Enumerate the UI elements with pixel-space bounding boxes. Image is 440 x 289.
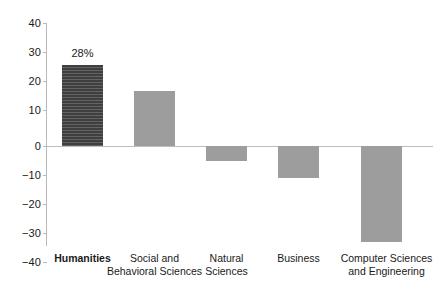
y-tick-label-0: 0 bbox=[0, 141, 41, 152]
x-label-computer-sciences-and-engineering: Computer Sciences and Engineering bbox=[337, 252, 436, 277]
y-tick-label-neg20: −20 bbox=[0, 199, 41, 210]
y-axis-line bbox=[46, 23, 47, 246]
y-tick-mark-neg30 bbox=[43, 233, 47, 234]
bar-humanities[interactable] bbox=[62, 65, 103, 146]
bar-chart: 40 30 20 10 0 −10 −20 −30 −40 28% Humani… bbox=[0, 0, 440, 289]
x-label-social-and-behavioral-sciences: Social and Behavioral Sciences bbox=[105, 252, 204, 277]
y-tick-mark-neg10 bbox=[43, 175, 47, 176]
y-tick-label-40: 40 bbox=[0, 18, 41, 29]
y-tick-mark-20 bbox=[43, 81, 47, 82]
y-tick-label-neg30: −30 bbox=[0, 228, 41, 239]
bar-natural-sciences[interactable] bbox=[206, 146, 247, 161]
y-tick-label-neg10: −10 bbox=[0, 170, 41, 181]
y-tick-mark-0 bbox=[43, 146, 47, 147]
y-tick-label-10: 10 bbox=[0, 105, 41, 116]
bar-social-and-behavioral-sciences[interactable] bbox=[134, 91, 175, 146]
y-tick-mark-30 bbox=[43, 52, 47, 53]
x-label-natural-sciences: Natural Sciences bbox=[194, 252, 259, 277]
y-tick-label-neg40: −40 bbox=[0, 257, 41, 268]
y-tick-mark-40 bbox=[43, 23, 47, 24]
bar-value-label-humanities: 28% bbox=[58, 47, 107, 59]
y-tick-mark-10 bbox=[43, 110, 47, 111]
bar-computer-sciences-and-engineering[interactable] bbox=[361, 146, 402, 242]
x-label-business: Business bbox=[266, 252, 331, 265]
y-tick-mark-neg20 bbox=[43, 204, 47, 205]
bar-business[interactable] bbox=[278, 146, 319, 178]
y-tick-label-30: 30 bbox=[0, 47, 41, 58]
y-tick-label-20: 20 bbox=[0, 76, 41, 87]
